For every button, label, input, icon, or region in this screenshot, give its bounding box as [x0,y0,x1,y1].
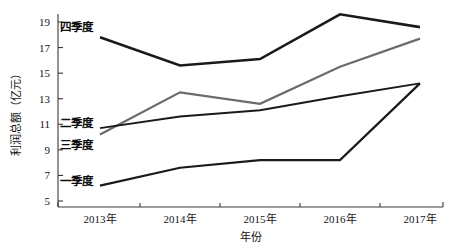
chart-canvas: 5791113151719 2013年2014年2015年2016年2017年 … [0,0,457,247]
y-tick-label: 17 [39,42,51,54]
series-label-二季度: 二季度 [60,116,94,129]
y-tick-label: 9 [45,144,51,156]
y-tick-label: 11 [39,118,50,130]
x-tick-label: 2014年 [164,212,197,225]
series-label-四季度: 四季度 [60,20,94,33]
y-tick-label: 5 [45,195,51,207]
series-line [100,14,420,65]
y-tick-label: 13 [39,93,51,105]
y-tick-label: 19 [39,16,51,28]
y-axis-title: 利润总额（亿元） [9,68,22,156]
x-tick-label: 2016年 [324,212,357,225]
line-chart: 5791113151719 2013年2014年2015年2016年2017年 … [0,0,457,247]
x-tick-label: 2013年 [84,212,117,225]
y-tick-label: 7 [45,169,51,181]
series-label-三季度: 三季度 [60,138,94,151]
x-axis: 2013年2014年2015年2016年2017年 [58,202,443,225]
x-tick-label: 2017年 [404,212,437,225]
x-tick-label: 2015年 [244,212,277,225]
series-line [100,83,420,128]
y-tick-label: 15 [39,67,51,79]
x-axis-title: 年份 [240,230,262,243]
series-label-一季度: 一季度 [60,174,94,187]
series-labels: 四季度三季度二季度一季度 [60,20,94,186]
series-line [100,83,420,185]
series-lines [100,14,420,185]
